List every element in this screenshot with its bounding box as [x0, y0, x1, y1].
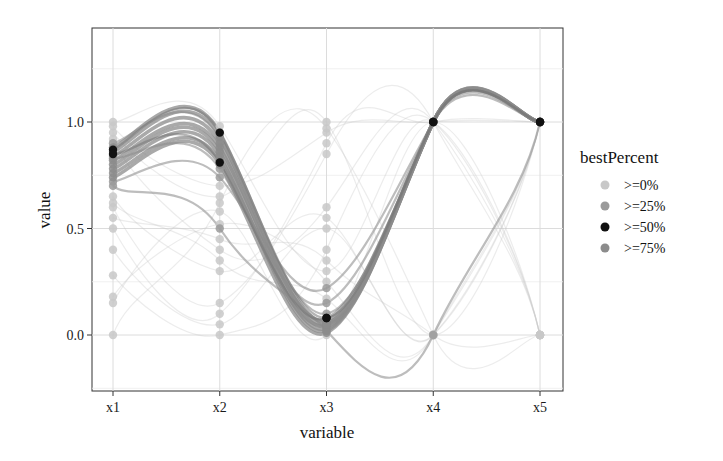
legend-label: >=50%	[624, 220, 666, 235]
data-point	[216, 320, 224, 328]
chart: x1x2x3x4x5 0.00.51.0 variable value best…	[0, 0, 723, 461]
data-point	[322, 214, 330, 222]
data-point	[109, 331, 117, 339]
data-point	[109, 224, 117, 232]
data-point	[322, 284, 330, 292]
x-tick-label: x5	[533, 400, 547, 415]
data-point	[322, 150, 330, 158]
data-point	[216, 267, 224, 275]
data-point	[216, 158, 224, 166]
data-point	[109, 173, 117, 181]
data-point	[322, 299, 330, 307]
y-tick-label: 0.5	[67, 222, 85, 237]
data-point	[322, 256, 330, 264]
data-point	[216, 128, 224, 136]
x-axis-title: variable	[300, 423, 355, 442]
data-point	[216, 235, 224, 243]
data-point	[429, 331, 437, 339]
x-tick-label: x1	[106, 400, 120, 415]
legend-key	[601, 223, 610, 232]
data-point	[109, 150, 117, 158]
legend-label: >=75%	[624, 241, 666, 256]
data-point	[109, 214, 117, 222]
data-point	[109, 246, 117, 254]
data-point	[216, 331, 224, 339]
data-point	[536, 118, 544, 126]
data-point	[322, 267, 330, 275]
legend-key	[601, 244, 610, 253]
data-point	[322, 139, 330, 147]
data-point	[429, 118, 437, 126]
data-point	[322, 246, 330, 254]
legend-key	[601, 202, 610, 211]
data-point	[322, 329, 330, 337]
y-tick-label: 0.0	[67, 328, 85, 343]
legend-label: >=25%	[624, 199, 666, 214]
data-point	[322, 314, 330, 322]
x-axis: x1x2x3x4x5	[106, 391, 547, 415]
data-point	[109, 271, 117, 279]
x-tick-label: x3	[320, 400, 334, 415]
x-tick-label: x4	[426, 400, 440, 415]
data-point	[216, 182, 224, 190]
data-point	[216, 173, 224, 181]
data-point	[216, 299, 224, 307]
data-point	[216, 246, 224, 254]
legend: bestPercent >=0%>=25%>=50%>=75%	[580, 148, 666, 256]
data-point	[216, 207, 224, 215]
data-point	[216, 310, 224, 318]
y-axis-title: value	[35, 192, 54, 229]
legend-title: bestPercent	[580, 148, 659, 167]
data-point	[216, 256, 224, 264]
data-point	[109, 182, 117, 190]
data-point	[322, 124, 330, 132]
x-tick-label: x2	[213, 400, 227, 415]
data-point	[322, 203, 330, 211]
data-point	[536, 331, 544, 339]
data-point	[216, 224, 224, 232]
data-point	[216, 199, 224, 207]
legend-label: >=0%	[624, 178, 659, 193]
data-point	[109, 299, 117, 307]
legend-key	[601, 181, 610, 190]
data-point	[322, 224, 330, 232]
data-point	[109, 199, 117, 207]
y-axis: 0.00.51.0	[67, 115, 93, 343]
y-tick-label: 1.0	[67, 115, 85, 130]
